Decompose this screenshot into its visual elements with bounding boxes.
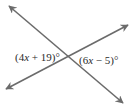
right-angle-suffix: − 5)° bbox=[93, 54, 118, 66]
right-angle-label: (6x − 5)° bbox=[79, 54, 118, 66]
right-angle-prefix: (6 bbox=[79, 54, 88, 66]
left-angle-prefix: (4 bbox=[15, 51, 24, 63]
left-angle-label: (4x + 19)° bbox=[15, 51, 60, 63]
left-angle-suffix: + 19)° bbox=[29, 51, 60, 63]
